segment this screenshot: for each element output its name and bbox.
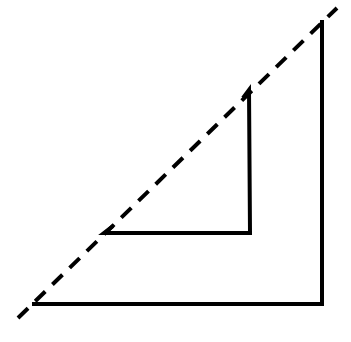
dashed-diagonal-line <box>18 8 337 318</box>
diagram-canvas <box>0 0 351 342</box>
